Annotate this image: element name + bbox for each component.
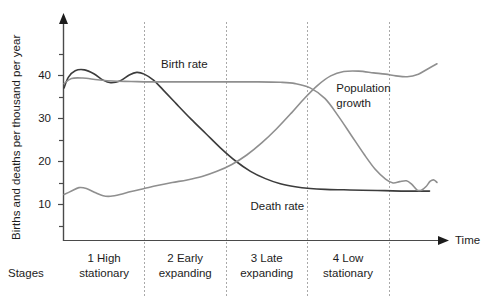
stage-1-line1: 1 High xyxy=(87,252,120,264)
y-axis-tick-labels: 10203040 xyxy=(38,69,51,210)
stage-label-1: 1 Highstationary xyxy=(79,252,129,279)
y-axis-title: Births and deaths per thousand per year xyxy=(10,35,22,240)
stage-label-2: 2 Earlyexpanding xyxy=(159,252,212,279)
death-rate-label: Death rate xyxy=(251,200,305,212)
y-tick-label-30: 30 xyxy=(38,112,51,124)
stage-4-line2: stationary xyxy=(323,267,373,279)
stages-row-label: Stages xyxy=(8,267,44,279)
population-growth-label: Population xyxy=(336,82,390,94)
stage-label-4: 4 Lowstationary xyxy=(323,252,373,279)
stage-3-line1: 3 Late xyxy=(251,252,283,264)
series-line-birth-rate xyxy=(64,78,437,191)
stage-2-line2: expanding xyxy=(159,267,212,279)
stage-2-line1: 2 Early xyxy=(167,252,203,264)
population-growth-label-2: growth xyxy=(336,97,371,109)
stage-label-3: 3 Lateexpanding xyxy=(240,252,293,279)
stage-1-line2: stationary xyxy=(79,267,129,279)
x-axis xyxy=(64,236,450,245)
stage-4-line1: 4 Low xyxy=(333,252,364,264)
y-axis xyxy=(59,13,68,241)
chart-canvas: 10203040 Birth rateDeath ratePopulationg… xyxy=(0,0,482,304)
x-axis-title: Time xyxy=(455,234,480,246)
y-tick-label-20: 20 xyxy=(38,155,51,167)
birth-rate-label: Birth rate xyxy=(161,58,208,70)
y-tick-label-10: 10 xyxy=(38,198,51,210)
stage-3-line2: expanding xyxy=(240,267,293,279)
demographic-transition-chart: 10203040 Birth rateDeath ratePopulationg… xyxy=(0,0,482,304)
y-tick-label-40: 40 xyxy=(38,69,51,81)
